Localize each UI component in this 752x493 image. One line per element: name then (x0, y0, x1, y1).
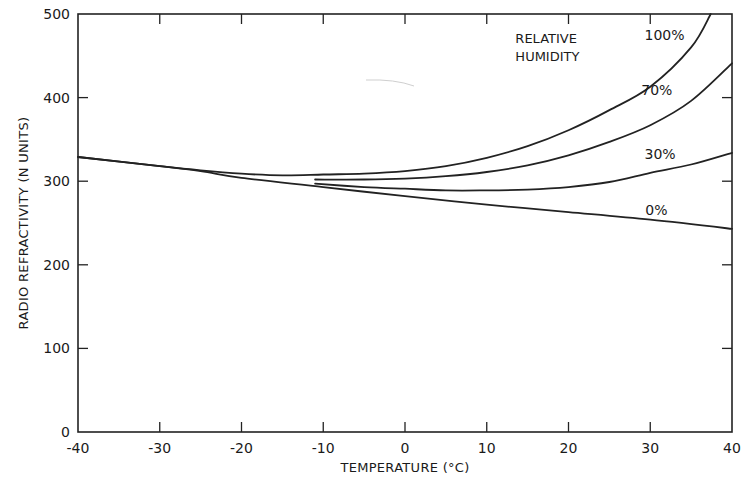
legend-title: HUMIDITY (515, 49, 579, 64)
y-tick-label: 400 (43, 90, 70, 106)
axis-ticks (78, 14, 732, 432)
x-tick-label: -30 (148, 440, 171, 456)
y-tick-label: 100 (43, 340, 70, 356)
x-tick-label: 10 (478, 440, 496, 456)
y-axis-title: RADIO REFRACTIVITY (N UNITS) (16, 117, 31, 330)
scan-smudge (366, 80, 414, 86)
x-axis-title: TEMPERATURE (°C) (339, 460, 469, 475)
x-tick-label: -40 (67, 440, 90, 456)
x-tick-label: -10 (312, 440, 335, 456)
curve-rh-0pct (78, 157, 732, 229)
y-tick-label: 200 (43, 257, 70, 273)
y-tick-label: 300 (43, 173, 70, 189)
x-tick-label: -20 (230, 440, 253, 456)
series-label: 100% (645, 27, 685, 43)
x-tick-label: 40 (723, 440, 741, 456)
series-label: 30% (645, 146, 676, 162)
plot-frame (78, 14, 732, 432)
series-label: 70% (641, 82, 672, 98)
curve-rh-100pct (78, 14, 711, 175)
y-tick-label: 500 (43, 6, 70, 22)
refractivity-chart: -40-30-20-10010203040 0100200300400500 R… (0, 0, 752, 493)
y-axis-tick-labels: 0100200300400500 (43, 6, 70, 440)
legend-title: RELATIVE (515, 31, 577, 46)
humidity-curves (78, 14, 732, 229)
y-tick-label: 0 (61, 424, 70, 440)
x-tick-label: 30 (641, 440, 659, 456)
x-tick-label: 0 (401, 440, 410, 456)
x-tick-label: 20 (560, 440, 578, 456)
series-label: 0% (645, 202, 667, 218)
x-axis-tick-labels: -40-30-20-10010203040 (67, 440, 741, 456)
